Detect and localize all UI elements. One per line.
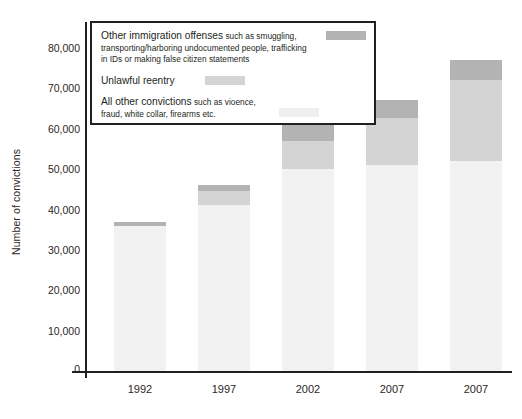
- legend-swatch-all-other-convictions: [279, 108, 319, 117]
- legend-title-other-immigration-offenses: Other immigration offenses: [101, 30, 223, 41]
- bar-2007-a[interactable]: [366, 100, 418, 371]
- legend-entry-other-immigration-offenses: Other immigration offenses such as smugg…: [101, 30, 365, 66]
- bar-segment-unlawful-reentry: [366, 118, 418, 165]
- y-tick-80000: 80,000: [28, 42, 80, 54]
- x-tick-1997: 1997: [179, 383, 269, 395]
- bar-segment-other-immigration-offenses: [198, 185, 250, 191]
- bar-1992[interactable]: [114, 222, 166, 371]
- legend-swatch-other-immigration-offenses: [326, 31, 366, 40]
- y-axis-tick-labels: 80,000 70,000 60,000 50,000 40,000 30,00…: [22, 0, 80, 419]
- legend-desc-all-other-convictions: such as vioence,: [194, 97, 256, 107]
- bar-segment-all-other-convictions: [366, 165, 418, 371]
- x-tick-2007-b: 2007: [431, 383, 521, 395]
- y-tick-50000: 50,000: [28, 163, 80, 175]
- bar-segment-all-other-convictions: [450, 161, 502, 371]
- legend-title-unlawful-reentry: Unlawful reentry: [101, 75, 175, 86]
- bar-segment-other-immigration-offenses: [450, 60, 502, 80]
- bar-segment-all-other-convictions: [198, 205, 250, 371]
- bar-segment-all-other-convictions: [114, 226, 166, 371]
- bar-2007-b[interactable]: [450, 60, 502, 371]
- bar-segment-unlawful-reentry: [198, 191, 250, 205]
- bar-segment-other-immigration-offenses: [114, 222, 166, 226]
- legend-desc-other-immigration-offenses: such as smuggling,: [225, 31, 296, 41]
- bar-segment-unlawful-reentry: [282, 141, 334, 169]
- bar-1997[interactable]: [198, 185, 250, 371]
- y-tick-10000: 10,000: [28, 325, 80, 337]
- x-tick-1992: 1992: [95, 383, 185, 395]
- stacked-bar-chart: Number of convictions 80,000 70,000 60,0…: [0, 0, 522, 419]
- y-tick-20000: 20,000: [28, 284, 80, 296]
- legend-desc-line3-other-immigration-offenses: in IDs or making false citizen statement…: [101, 54, 365, 66]
- y-axis-title: Number of convictions: [10, 112, 22, 292]
- legend-desc-line2-all-other-convictions: fraud, white collar, firearms etc.: [101, 109, 365, 121]
- y-tick-30000: 30,000: [28, 244, 80, 256]
- y-tick-70000: 70,000: [28, 82, 80, 94]
- bar-segment-other-immigration-offenses: [282, 125, 334, 141]
- legend-title-all-other-convictions: All other convictions: [101, 96, 192, 107]
- legend-swatch-unlawful-reentry: [205, 76, 245, 85]
- y-tick-60000: 60,000: [28, 123, 80, 135]
- legend-desc-line2-other-immigration-offenses: transporting/harboring undocumented peop…: [101, 43, 365, 55]
- bar-segment-all-other-convictions: [282, 169, 334, 371]
- chart-legend: Other immigration offenses such as smugg…: [90, 21, 376, 125]
- x-tick-2002: 2002: [263, 383, 353, 395]
- legend-entry-unlawful-reentry: Unlawful reentry: [101, 75, 365, 88]
- x-tick-2007-a: 2007: [347, 383, 437, 395]
- y-tick-40000: 40,000: [28, 204, 80, 216]
- legend-entry-all-other-convictions: All other convictions such as vioence, f…: [101, 96, 365, 120]
- bar-segment-unlawful-reentry: [450, 80, 502, 161]
- bar-2002[interactable]: [282, 125, 334, 371]
